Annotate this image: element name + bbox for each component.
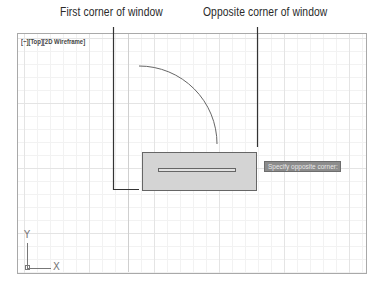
ucs-x-label: X [53,261,60,272]
arc-object[interactable] [139,66,217,144]
command-prompt-tooltip: Specify opposite corner: [264,161,341,172]
line-object[interactable] [159,169,236,172]
drawing-overlay [0,0,384,293]
first-corner-leader-line [114,27,140,190]
ucs-y-label: Y [24,229,30,240]
ucs-icon [26,243,52,270]
